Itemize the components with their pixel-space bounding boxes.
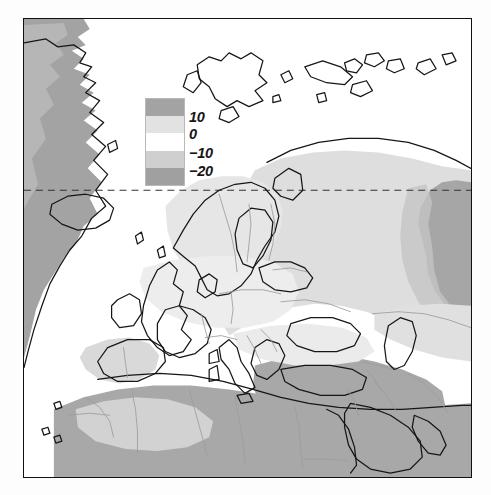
legend-label-minus-10: −10 [189,146,213,161]
legend-swatches [145,98,185,186]
legend-label-10: 10 [189,110,205,125]
legend-band-minus20-to-minus10 [146,151,184,168]
legend: 10 0 −10 −20 [145,98,229,188]
legend-band-above-10 [146,99,184,116]
legend-labels: 10 0 −10 −20 [189,98,233,186]
figure-container: 10 0 −10 −20 [0,0,491,495]
map-frame: 10 0 −10 −20 [23,18,472,478]
legend-label-minus-20: −20 [189,164,213,179]
legend-band-0-to-10 [146,116,184,133]
legend-label-0: 0 [189,127,197,142]
legend-band-below-minus20 [146,168,184,185]
map-canvas [24,19,471,477]
legend-band-minus10-to-0 [146,133,184,150]
